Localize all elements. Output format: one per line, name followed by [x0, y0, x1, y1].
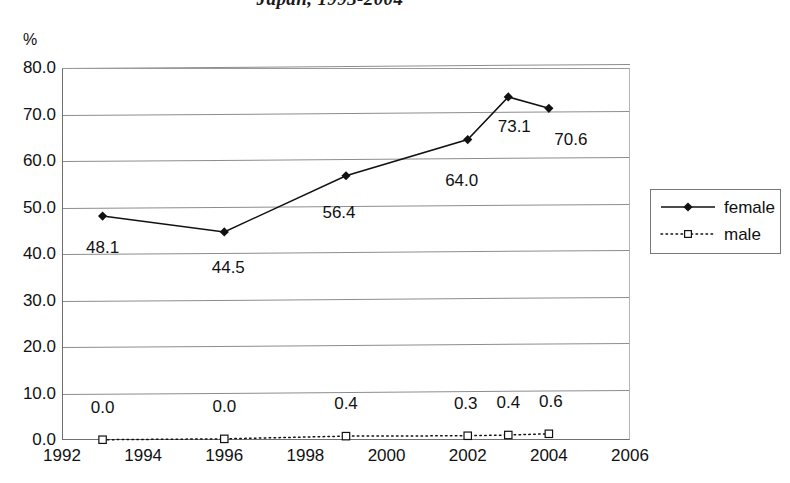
data-marker-diamond [220, 227, 229, 236]
y-axis-tick-label: 80.0 [4, 58, 56, 78]
y-axis-tick-label: 30.0 [4, 291, 56, 311]
data-point-label-male: 0.3 [454, 394, 478, 414]
legend-label-male: male [724, 226, 761, 243]
data-point-label-male: 0.4 [496, 393, 520, 413]
data-point-label-male: 0.6 [539, 392, 563, 412]
chart-legend: female male [650, 189, 781, 254]
x-axis-tick-label: 1996 [189, 446, 259, 466]
plot-area [62, 68, 630, 440]
x-axis-tick-label: 2006 [595, 446, 665, 466]
y-axis-tick-label: 70.0 [4, 105, 56, 125]
data-point-label-female: 70.6 [554, 130, 587, 150]
chart-title: Japan, 1993-2004 [0, 0, 660, 10]
data-point-label-female: 56.4 [322, 203, 355, 223]
line-chart: Japan, 1993-2004 % 0.010.020.030.040.050… [0, 0, 790, 483]
data-marker-diamond [98, 211, 107, 220]
series-line-male [103, 434, 549, 440]
x-axis-tick-label: 1994 [108, 446, 178, 466]
x-axis-tick-label: 2000 [352, 446, 422, 466]
data-point-label-female: 73.1 [498, 117, 531, 137]
data-marker-diamond [341, 171, 350, 180]
y-axis-tick-label: 50.0 [4, 198, 56, 218]
x-axis-tick-label: 2002 [433, 446, 503, 466]
data-marker-square [505, 431, 512, 438]
legend-swatch-solid-diamond-icon [659, 200, 717, 214]
legend-entry-male: male [659, 223, 761, 245]
data-marker-square [342, 432, 349, 439]
x-axis-tick-label: 2004 [514, 446, 584, 466]
data-point-label-male: 0.0 [91, 398, 115, 418]
data-point-label-female: 44.5 [212, 258, 245, 278]
data-point-label-female: 64.0 [445, 171, 478, 191]
legend-entry-female: female [659, 196, 775, 218]
y-axis-tick-label: 40.0 [4, 244, 56, 264]
data-point-label-male: 0.0 [212, 397, 236, 417]
y-axis-tick-label: 20.0 [4, 337, 56, 357]
data-point-label-male: 0.4 [334, 394, 358, 414]
data-marker-diamond [544, 104, 553, 113]
data-series-layer [62, 68, 630, 440]
data-marker-square [99, 436, 106, 443]
legend-swatch-dotted-square-icon [659, 227, 717, 241]
y-axis-tick-label: 60.0 [4, 151, 56, 171]
x-axis-tick-label: 1992 [27, 446, 97, 466]
legend-label-female: female [724, 199, 775, 216]
data-marker-square [464, 432, 471, 439]
y-axis-tick-label: 10.0 [4, 384, 56, 404]
y-axis-unit-label: % [23, 31, 37, 49]
data-marker-square [545, 430, 552, 437]
data-marker-square [221, 435, 228, 442]
data-point-label-female: 48.1 [86, 238, 119, 258]
x-axis-tick-label: 1998 [270, 446, 340, 466]
